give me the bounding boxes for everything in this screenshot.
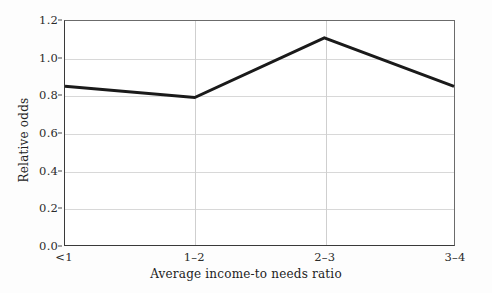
- x-axis-tick-label: 3–4: [445, 250, 466, 264]
- y-axis-tick-label: 0.2: [39, 201, 58, 215]
- y-axis-tick-mark: [58, 20, 62, 21]
- y-axis-tick-mark: [58, 95, 62, 96]
- y-axis-tick-mark: [58, 208, 62, 209]
- line-series-relative-odds: [65, 21, 454, 245]
- y-axis-tick-label: 0.4: [39, 164, 58, 178]
- y-axis-title: Relative odds: [17, 70, 31, 210]
- y-axis-tick-label: 0.8: [39, 88, 58, 102]
- x-axis-tick-label: 2–3: [314, 250, 335, 264]
- y-axis-tick-mark: [58, 246, 62, 247]
- y-axis-tick-label: 1.2: [39, 13, 58, 27]
- series-polyline: [65, 38, 454, 98]
- y-axis-tick-mark: [58, 133, 62, 134]
- y-axis-tick-label: 0.6: [39, 126, 58, 140]
- y-axis-tick-label: 1.0: [39, 51, 58, 65]
- x-axis-tick-label: 1–2: [184, 250, 205, 264]
- y-axis-tick-mark: [58, 170, 62, 171]
- y-axis-tick-mark: [58, 57, 62, 58]
- chart-figure: 0.00.20.40.60.81.01.2 Relative odds <11–…: [0, 0, 492, 293]
- plot-area: [64, 20, 455, 246]
- x-axis-title: Average income-to needs ratio: [0, 267, 492, 281]
- x-axis-tick-label: <1: [55, 250, 72, 264]
